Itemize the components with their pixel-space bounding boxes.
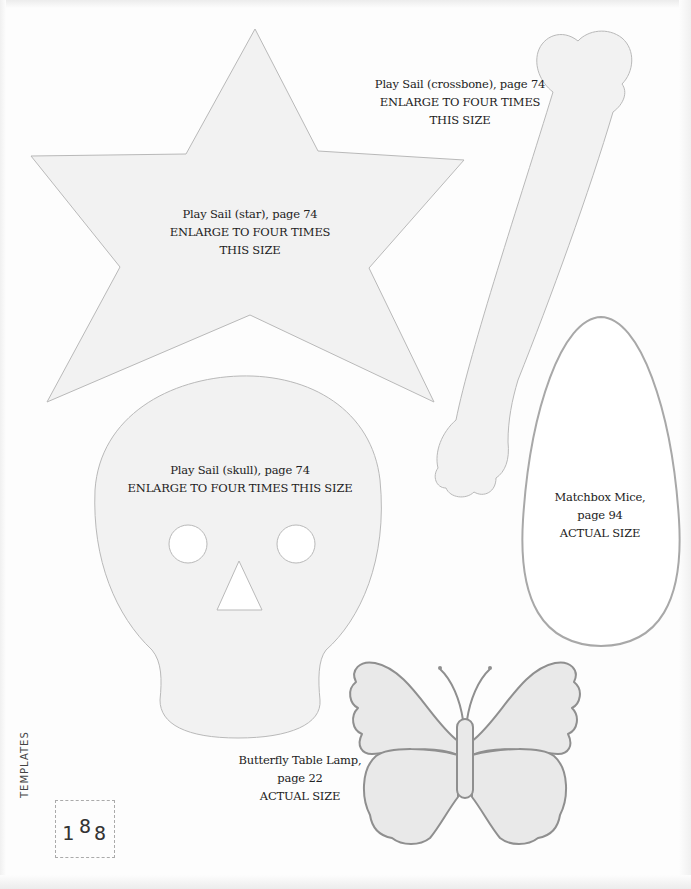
- butterfly-left-antenna: [440, 669, 463, 720]
- page-number-digit-1: 1: [62, 821, 74, 845]
- section-label: TEMPLATES: [19, 731, 30, 798]
- page-number-digit-2: 8: [79, 814, 91, 838]
- page-number-box: 1 8 8: [55, 800, 115, 858]
- star-instruction-cont: THIS SIZE: [150, 241, 350, 259]
- butterfly-right-upper-wing: [472, 662, 580, 755]
- star-template-label: Play Sail (star), page 74 ENLARGE TO FOU…: [150, 205, 350, 259]
- template-page: Play Sail (crossbone), page 74 ENLARGE T…: [0, 0, 691, 889]
- mice-template-shape: [522, 317, 679, 646]
- butterfly-template-shape: [350, 662, 580, 844]
- mice-instruction: ACTUAL SIZE: [530, 524, 670, 542]
- butterfly-right-lower-wing: [472, 749, 566, 844]
- page-number-digit-3: 8: [94, 821, 106, 845]
- butterfly-right-antenna-tip: [488, 666, 492, 670]
- butterfly-page-ref: page 22: [235, 769, 365, 787]
- star-instruction: ENLARGE TO FOUR TIMES: [150, 223, 350, 241]
- skull-right-eye-cutout: [277, 525, 315, 563]
- butterfly-left-antenna-tip: [438, 666, 442, 670]
- star-title: Play Sail (star), page 74: [150, 205, 350, 223]
- butterfly-left-lower-wing: [364, 749, 458, 844]
- mice-title: Matchbox Mice,: [530, 488, 670, 506]
- butterfly-template-label: Butterfly Table Lamp, page 22 ACTUAL SIZ…: [235, 751, 365, 805]
- butterfly-left-upper-wing: [350, 662, 458, 755]
- mice-page-ref: page 94: [530, 506, 670, 524]
- butterfly-right-antenna: [467, 669, 490, 720]
- skull-instruction: ENLARGE TO FOUR TIMES THIS SIZE: [110, 479, 370, 497]
- butterfly-body: [457, 719, 473, 798]
- mice-template-label: Matchbox Mice, page 94 ACTUAL SIZE: [530, 488, 670, 542]
- crossbone-instruction: ENLARGE TO FOUR TIMES: [360, 93, 560, 111]
- skull-left-eye-cutout: [169, 525, 207, 563]
- butterfly-title: Butterfly Table Lamp,: [235, 751, 365, 769]
- crossbone-title: Play Sail (crossbone), page 74: [360, 75, 560, 93]
- skull-template-label: Play Sail (skull), page 74 ENLARGE TO FO…: [110, 461, 370, 497]
- skull-template-shape: [95, 376, 382, 738]
- butterfly-instruction: ACTUAL SIZE: [235, 787, 365, 805]
- crossbone-template-label: Play Sail (crossbone), page 74 ENLARGE T…: [360, 75, 560, 129]
- skull-title: Play Sail (skull), page 74: [110, 461, 370, 479]
- crossbone-instruction-cont: THIS SIZE: [360, 111, 560, 129]
